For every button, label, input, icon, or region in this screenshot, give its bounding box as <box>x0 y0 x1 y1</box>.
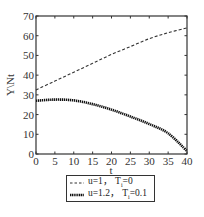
legend-label-2: u=1.2， Ti=0.1 <box>88 187 147 203</box>
series-layer <box>36 28 187 151</box>
y-tick-label: 20 <box>23 109 35 121</box>
y-tick-label: 70 <box>23 10 35 22</box>
x-tick-label: 15 <box>87 155 99 167</box>
dashed-line-swatch-icon <box>70 180 84 186</box>
y-tick-label: 0 <box>29 148 35 160</box>
y-tick-label: 60 <box>23 30 35 42</box>
x-tick-label: 5 <box>52 155 58 167</box>
x-tick-label: 30 <box>144 155 156 167</box>
y-tick-label: 40 <box>23 69 35 81</box>
series-line-1 <box>36 28 187 90</box>
x-tick-label: 35 <box>163 155 175 167</box>
x-axis-ticks: 0510152025303540 <box>33 16 193 167</box>
x-tick-label: 10 <box>68 155 80 167</box>
y-tick-label: 50 <box>23 49 35 61</box>
legend-entry-2: u=1.2， Ti=0.1 <box>70 189 154 201</box>
x-tick-label: 40 <box>182 155 194 167</box>
legend: u=1， Ti=0 u=1.2， Ti=0.1 <box>66 175 155 202</box>
y-tick-label: 30 <box>23 89 35 101</box>
series-line-2 <box>36 100 187 151</box>
y-axis-label: Y\Nt <box>4 74 16 96</box>
x-tick-label: 0 <box>33 155 39 167</box>
x-tick-label: 25 <box>125 155 137 167</box>
plot-frame <box>36 16 187 154</box>
y-tick-label: 10 <box>23 128 35 140</box>
thick-dotted-line-swatch-icon <box>70 192 84 198</box>
